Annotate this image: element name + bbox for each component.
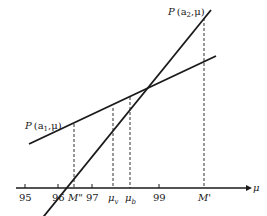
marker-label-mu-v: μv: [108, 192, 119, 206]
marker-label-m-double-prime: M": [67, 192, 83, 203]
marker-label-mu-b: μb: [125, 192, 137, 206]
label-p-a2: P(a2,μ): [167, 6, 205, 19]
tick-label-99: 99: [153, 192, 166, 203]
tick-label-97: 97: [86, 192, 99, 203]
tick-label-95: 95: [19, 192, 32, 203]
decision-lines-diagram: μ 95 96 97 99 M" μv μb M' P(a1,μ) P(a2,μ…: [0, 0, 267, 216]
marker-label-m-prime: M': [197, 192, 211, 203]
line-p-a2: [40, 10, 211, 216]
axis-label-mu: μ: [253, 182, 260, 193]
axis-arrow-icon: [246, 185, 252, 191]
